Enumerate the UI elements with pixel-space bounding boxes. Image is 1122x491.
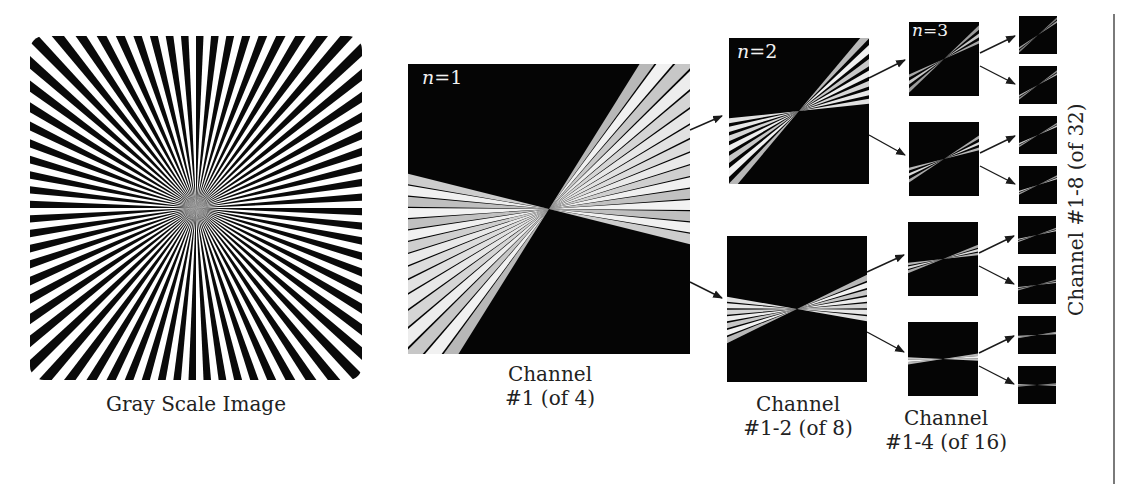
- level-n2-label: n=2: [737, 40, 777, 62]
- channel-n3-label: Channel #1-4 (of 16): [876, 406, 1016, 454]
- divider-line: [1113, 14, 1115, 484]
- channel-n4-panel-5: [1018, 216, 1056, 254]
- channel-n4-panel-1: [1019, 16, 1057, 54]
- channel-n1-label: Channel #1 (of 4): [470, 362, 630, 410]
- channel-n3-panel-4: [908, 322, 978, 396]
- arrow-n3b-to-n4d: [980, 166, 1015, 184]
- level-n1-label: n=1: [422, 66, 462, 88]
- channel-n4-panel-6: [1018, 266, 1056, 304]
- arrow-n3d-to-n4g: [979, 336, 1014, 353]
- arrow-n3a-to-n4b: [980, 66, 1015, 84]
- grayscale-source-image: [30, 36, 362, 380]
- arrow-n2a-to-n3b: [869, 135, 905, 155]
- channel-n3-label-line2: #1-4 (of 16): [876, 430, 1016, 454]
- arrow-n3b-to-n4c: [980, 136, 1015, 153]
- channel-n1-panel: [408, 64, 690, 354]
- arrow-n3c-to-n4e: [979, 236, 1014, 253]
- channel-n4-panel-3: [1019, 116, 1057, 154]
- level-n3-label: n=3: [912, 20, 948, 40]
- arrow-n1-to-n2-top: [690, 116, 722, 130]
- arrow-n1-to-n2-bottom: [690, 282, 722, 298]
- arrow-n2b-to-n3c: [867, 255, 904, 272]
- arrow-n2a-to-n3a: [869, 60, 905, 78]
- arrow-n3d-to-n4h: [979, 366, 1014, 384]
- channel-n2-label-line2: #1-2 (of 8): [718, 416, 878, 440]
- channel-n3-panel-3: [908, 222, 978, 296]
- grayscale-image-label: Gray Scale Image: [40, 392, 352, 416]
- arrow-n3a-to-n4a: [980, 36, 1015, 53]
- starburst-pattern: [30, 36, 362, 380]
- channel-n4-panel-4: [1019, 166, 1057, 204]
- channel-n3-label-line1: Channel: [876, 406, 1016, 430]
- channel-n2-label: Channel #1-2 (of 8): [718, 392, 878, 440]
- channel-n2-label-line1: Channel: [718, 392, 878, 416]
- channel-n1-label-line2: #1 (of 4): [470, 386, 630, 410]
- channel-n4-label: Channel #1-8 (of 32): [1064, 103, 1088, 316]
- channel-n1-label-line1: Channel: [470, 362, 630, 386]
- channel-n3-panel-2: [909, 122, 979, 196]
- arrow-n3c-to-n4f: [979, 266, 1014, 284]
- channel-n4-panel-7: [1018, 316, 1056, 354]
- channel-n2-panel-2: [727, 236, 867, 382]
- channel-n4-panel-8: [1018, 366, 1056, 404]
- arrow-n2b-to-n3d: [867, 332, 904, 352]
- channel-n4-panel-2: [1019, 66, 1057, 104]
